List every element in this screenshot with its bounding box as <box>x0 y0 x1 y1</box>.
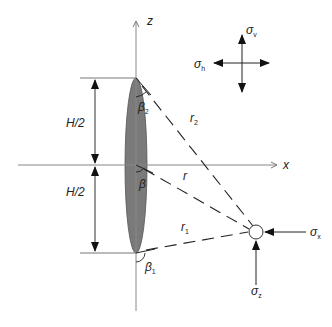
distance-lines <box>142 86 253 250</box>
sigma-v-label: σv <box>246 23 257 38</box>
distance-r2-label: r2 <box>190 111 198 126</box>
sigma-x-label: σx <box>310 225 321 240</box>
far-field-stress-cross <box>214 35 269 92</box>
upper-half-height-label: H/2 <box>66 116 85 130</box>
fracture-stress-diagram: z x H/2 H/2 β2 β β1 r2 r <box>0 0 332 327</box>
distance-line-r2 <box>142 86 253 226</box>
distance-line-r <box>144 169 249 229</box>
angle-beta1-label: β1 <box>144 260 156 275</box>
distance-r-label: r <box>183 169 188 183</box>
angle-beta2-label: β2 <box>137 100 149 115</box>
sigma-z-label: σz <box>251 284 262 299</box>
z-axis-label: z <box>146 14 153 28</box>
distance-r1-label: r1 <box>181 220 189 235</box>
lower-half-height-label: H/2 <box>66 185 85 199</box>
angle-beta-label: β <box>138 177 146 191</box>
observation-point <box>249 225 263 239</box>
distance-line-r1 <box>146 232 248 250</box>
x-axis-label: x <box>282 158 290 172</box>
sigma-h-label: σh <box>194 57 205 72</box>
